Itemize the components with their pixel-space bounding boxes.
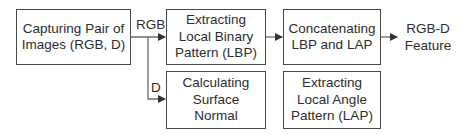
node-text-line: Pattern (LAP)	[291, 108, 373, 125]
edge-label-rgb: RGB	[136, 17, 165, 33]
output-text-line: Feature	[400, 37, 456, 54]
node-extracting-lap: Extracting Local Angle Pattern (LAP)	[283, 71, 381, 129]
node-text-line: Local Binary	[175, 29, 257, 46]
output-text-line: RGB-D	[400, 20, 456, 37]
node-text-line: Calculating	[183, 75, 250, 92]
node-text-line: Concatenating	[288, 21, 375, 38]
node-text-line: Capturing Pair of	[22, 21, 126, 38]
node-text-line: Local Angle	[291, 92, 373, 109]
edge-label-d: D	[151, 80, 161, 96]
node-text-line: Pattern (LBP)	[175, 45, 257, 62]
node-capturing-pair-of-images: Capturing Pair of Images (RGB, D)	[16, 9, 131, 65]
node-text-line: Images (RGB, D)	[22, 37, 126, 54]
node-extracting-lbp: Extracting Local Binary Pattern (LBP)	[166, 9, 266, 65]
node-text-line: Extracting	[175, 12, 257, 29]
node-calculating-surface-normal: Calculating Surface Normal	[166, 71, 266, 129]
node-text-line: Normal	[183, 108, 250, 125]
node-text-line: Surface	[183, 92, 250, 109]
node-text-line: LBP and LAP	[288, 37, 375, 54]
node-text-line: Extracting	[291, 75, 373, 92]
node-concatenating-lbp-lap: Concatenating LBP and LAP	[283, 9, 381, 65]
output-rgbd-feature: RGB-D Feature	[400, 20, 456, 54]
